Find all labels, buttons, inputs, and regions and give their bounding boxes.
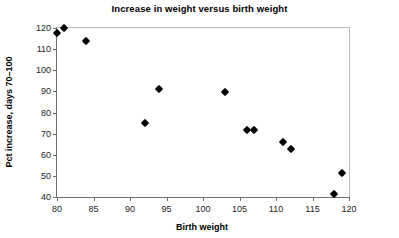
y-axis-tick (53, 134, 57, 135)
y-axis-tick (53, 176, 57, 177)
chart-title: Increase in weight versus birth weight (0, 3, 399, 14)
y-axis-title: Pct increase, days 70–100 (2, 27, 16, 196)
data-point-marker (279, 138, 287, 146)
y-axis-tick-label: 60 (41, 150, 51, 160)
x-axis-tick (130, 197, 131, 201)
x-axis-tick-label: 85 (88, 204, 98, 214)
data-point-marker (53, 28, 61, 36)
data-point-marker (155, 85, 163, 93)
y-axis-tick-label: 40 (41, 192, 51, 202)
x-axis-tick-label: 105 (232, 204, 247, 214)
x-axis-tick (94, 197, 95, 201)
y-axis-tick-label: 80 (41, 108, 51, 118)
x-axis-tick-label: 115 (305, 204, 319, 214)
y-axis-tick (53, 49, 57, 50)
y-axis-tick (53, 155, 57, 156)
data-point-marker (337, 168, 345, 176)
plot-area: 4050607080901001101208085909510010511011… (56, 27, 350, 198)
x-axis-tick-label: 95 (161, 204, 171, 214)
x-axis-tick-label: 110 (269, 204, 283, 214)
data-point-marker (140, 119, 148, 127)
x-axis-tick-label: 120 (341, 204, 356, 214)
x-axis-tick (313, 197, 314, 201)
y-axis-tick-label: 100 (36, 65, 51, 75)
y-axis-tick-label: 70 (41, 129, 51, 139)
y-axis-tick (53, 91, 57, 92)
x-axis-tick-label: 90 (125, 204, 135, 214)
x-axis-tick (349, 197, 350, 201)
data-point-marker (82, 37, 90, 45)
x-axis-tick (57, 197, 58, 201)
y-axis-tick-label: 120 (36, 23, 51, 33)
data-point-marker (250, 126, 258, 134)
data-point-marker (286, 145, 294, 153)
x-axis-tick-label: 100 (195, 204, 210, 214)
x-axis-tick (240, 197, 241, 201)
y-axis-tick (53, 70, 57, 71)
x-axis-tick (167, 197, 168, 201)
y-axis-tick-label: 90 (41, 86, 51, 96)
x-axis-tick (276, 197, 277, 201)
y-axis-tick-label: 110 (37, 44, 51, 54)
y-axis-tick (53, 113, 57, 114)
data-point-marker (330, 190, 338, 198)
scatter-chart: Increase in weight versus birth weight P… (0, 0, 399, 238)
y-axis-title-label: Pct increase, days 70–100 (4, 56, 14, 167)
data-point-marker (221, 88, 229, 96)
data-point-marker (60, 24, 68, 32)
x-axis-title: Birth weight (56, 222, 348, 232)
y-axis-tick-label: 50 (41, 171, 51, 181)
x-axis-tick (203, 197, 204, 201)
x-axis-tick-label: 80 (52, 204, 62, 214)
